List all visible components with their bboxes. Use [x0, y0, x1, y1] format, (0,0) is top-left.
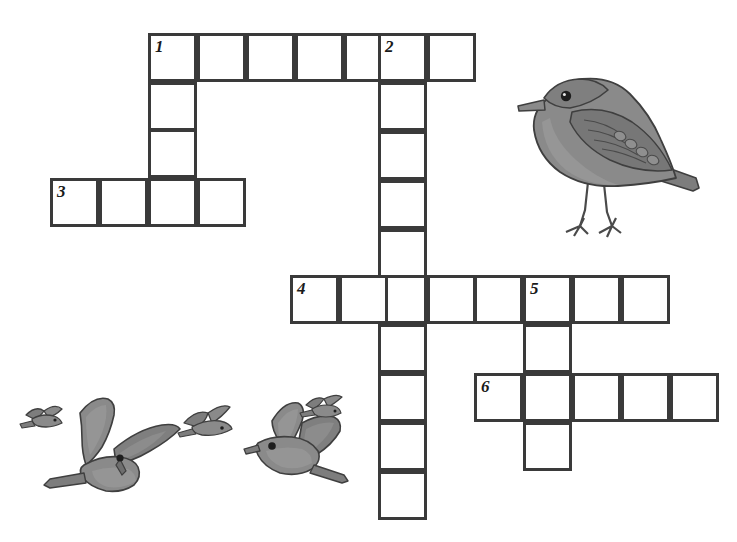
- crossword-cell[interactable]: [572, 275, 621, 324]
- cell-number-2: 2: [385, 37, 394, 56]
- crossword-cell[interactable]: [378, 82, 427, 131]
- crossword-cell[interactable]: [246, 33, 295, 82]
- cell-number-4: 4: [297, 279, 306, 298]
- crossword-cell[interactable]: 3: [50, 178, 99, 227]
- crossword-cell[interactable]: [148, 129, 197, 178]
- crossword-cell[interactable]: [427, 275, 476, 324]
- crossword-cell[interactable]: [572, 373, 621, 422]
- crossword-cell[interactable]: [295, 33, 344, 82]
- crossword-cell[interactable]: [670, 373, 719, 422]
- crossword-page: 123456: [0, 0, 737, 542]
- crossword-cell[interactable]: [621, 373, 670, 422]
- crossword-cell[interactable]: [197, 33, 246, 82]
- crossword-cell[interactable]: [378, 324, 427, 373]
- crossword-cell[interactable]: 1: [148, 33, 197, 82]
- crossword-cell[interactable]: [378, 229, 427, 278]
- crossword-cell[interactable]: [427, 33, 476, 82]
- crossword-cell[interactable]: 6: [474, 373, 523, 422]
- cell-number-1: 1: [155, 37, 164, 56]
- crossword-cell[interactable]: [197, 178, 246, 227]
- crossword-cell[interactable]: [523, 373, 572, 422]
- crossword-cell[interactable]: 5: [523, 275, 572, 324]
- crossword-cell[interactable]: [378, 180, 427, 229]
- crossword-cell[interactable]: [99, 178, 148, 227]
- crossword-cell[interactable]: [339, 275, 388, 324]
- cell-number-3: 3: [57, 182, 66, 201]
- crossword-cell[interactable]: [378, 373, 427, 422]
- crossword-cell[interactable]: [474, 275, 523, 324]
- crossword-cell[interactable]: [523, 324, 572, 373]
- crossword-cell[interactable]: [378, 131, 427, 180]
- crossword-cell[interactable]: 4: [290, 275, 339, 324]
- crossword-cell[interactable]: 2: [378, 33, 427, 82]
- crossword-cell[interactable]: [148, 82, 197, 131]
- cell-number-6: 6: [481, 377, 490, 396]
- crossword-cell[interactable]: [378, 422, 427, 471]
- flying-birds-illustration: [10, 393, 350, 518]
- crossword-cell[interactable]: [523, 422, 572, 471]
- crossword-cell[interactable]: [621, 275, 670, 324]
- cell-number-5: 5: [530, 279, 539, 298]
- crossword-cell[interactable]: [378, 471, 427, 520]
- perched-bird-illustration: [500, 60, 705, 240]
- crossword-cell[interactable]: [148, 178, 197, 227]
